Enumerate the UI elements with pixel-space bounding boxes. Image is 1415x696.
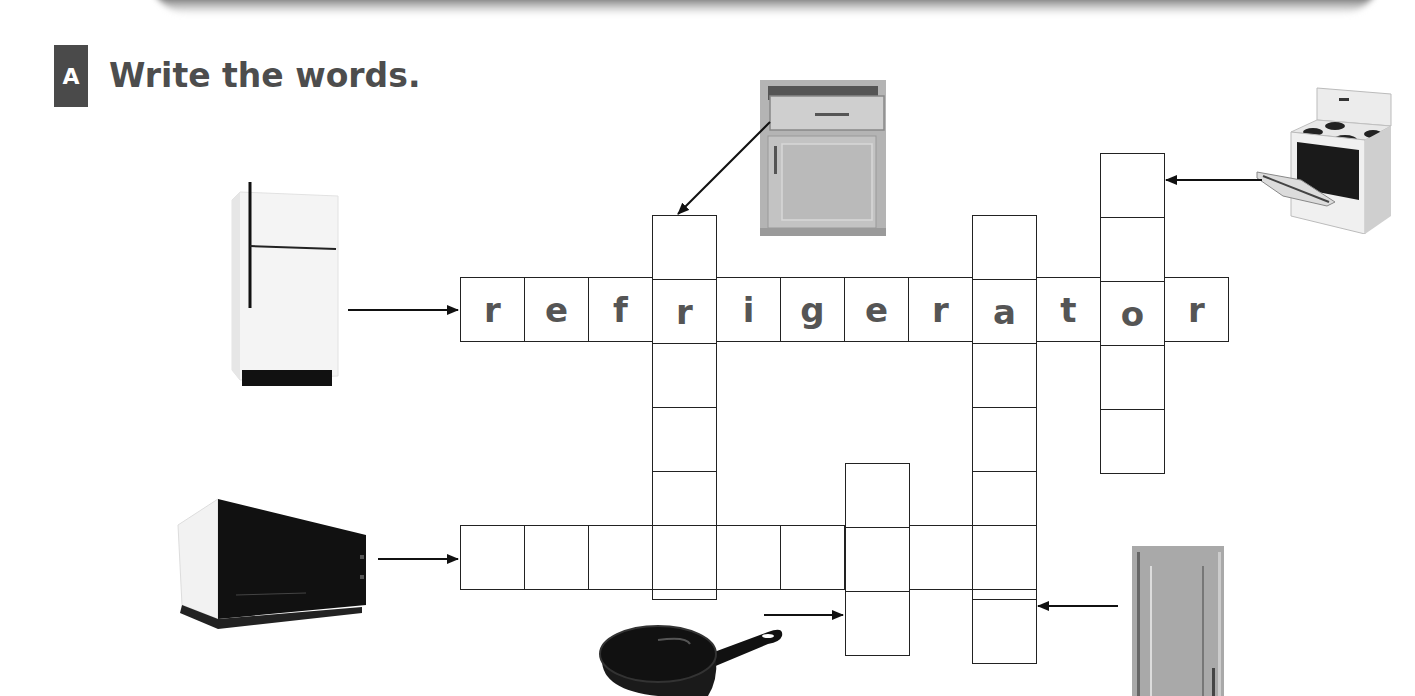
crossword-cell[interactable] — [1100, 409, 1165, 474]
crossword-cell[interactable] — [972, 599, 1037, 664]
crossword-cell[interactable] — [716, 525, 781, 590]
crossword-cell[interactable]: r — [460, 277, 525, 342]
crossword-cell[interactable] — [845, 591, 910, 656]
crossword-cell[interactable] — [652, 215, 717, 280]
crossword-cell[interactable] — [780, 525, 845, 590]
crossword-cell[interactable]: e — [524, 277, 589, 342]
crossword-cell[interactable] — [908, 525, 973, 590]
crossword-cell[interactable]: r — [652, 279, 717, 344]
crossword-cell[interactable] — [845, 527, 910, 592]
crossword-cell[interactable]: t — [1036, 277, 1101, 342]
crossword-cell[interactable] — [652, 407, 717, 472]
crossword-cell[interactable] — [972, 407, 1037, 472]
crossword-cell[interactable] — [652, 525, 717, 590]
crossword-cell[interactable] — [972, 343, 1037, 408]
crossword-cell[interactable] — [588, 525, 653, 590]
crossword-cell[interactable]: i — [716, 277, 781, 342]
crossword-cell[interactable] — [524, 525, 589, 590]
crossword-cell[interactable]: f — [588, 277, 653, 342]
crossword-cell[interactable] — [1100, 345, 1165, 410]
crossword-cell[interactable] — [1100, 153, 1165, 218]
crossword-cell[interactable] — [1100, 217, 1165, 282]
crossword-cell[interactable]: g — [780, 277, 845, 342]
crossword-cell[interactable]: r — [1164, 277, 1229, 342]
crossword-cell[interactable]: o — [1100, 281, 1165, 346]
crossword-cell[interactable] — [972, 215, 1037, 280]
crossword-grid: refrigeratorrao — [0, 0, 1415, 696]
crossword-cell[interactable] — [460, 525, 525, 590]
crossword-cell[interactable]: a — [972, 279, 1037, 344]
crossword-cell[interactable]: r — [908, 277, 973, 342]
crossword-cell[interactable]: e — [844, 277, 909, 342]
crossword-cell[interactable] — [972, 525, 1037, 590]
crossword-cell[interactable] — [845, 463, 910, 528]
crossword-cell[interactable] — [652, 343, 717, 408]
